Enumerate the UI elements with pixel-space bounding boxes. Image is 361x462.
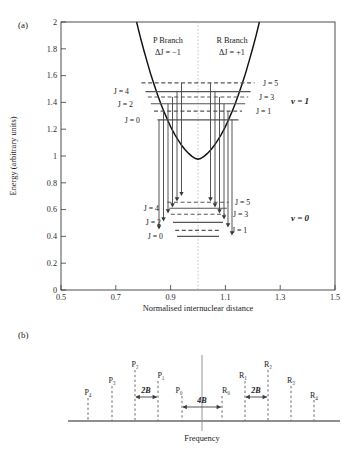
panel-a-y-tick-labels: 0 0.2 0.4 0.6 0.8 1 1.2 1.4 1.6 1.8 2 — [47, 18, 57, 295]
figure-svg: (a) 0 0.2 0.4 0.6 0.8 1 1.2 1.4 1.6 1.8 … — [0, 0, 361, 462]
v1-j-label-J0: J = 0 — [125, 116, 140, 125]
vibrational-state-upper-label: v = 1 — [291, 96, 309, 106]
spectral-label-P4: P₄ — [84, 388, 91, 397]
spectral-label-R4: R₄ — [310, 391, 318, 400]
p-branch-title: P Branch — [153, 36, 183, 45]
spectral-label-R3: R₃ — [287, 376, 295, 385]
panel-a-x-tick-labels: 0.5 0.7 0.9 1.1 1.3 1.5 — [56, 293, 340, 302]
spectral-label-P1: P₁ — [157, 371, 164, 380]
panel-b-x-axis-title: Frequency — [184, 434, 220, 443]
spectral-label-R2: R₂ — [264, 360, 272, 369]
y-tick-0p8: 0.8 — [47, 179, 57, 188]
v1-j-label-J4: J = 4 — [114, 87, 129, 96]
r-branch-transition-arrows — [211, 83, 233, 234]
figure-container: (a) 0 0.2 0.4 0.6 0.8 1 1.2 1.4 1.6 1.8 … — [0, 0, 361, 462]
v1-j-label-J1: J = 1 — [256, 107, 271, 116]
y-tick-0p2: 0.2 — [47, 259, 57, 268]
panel-a-x-axis-title: Normalised internuclear distance — [143, 304, 254, 313]
y-tick-2: 2 — [53, 18, 57, 27]
y-tick-0p6: 0.6 — [47, 205, 57, 214]
panel-a-label: (a) — [18, 20, 28, 30]
spacing-label-2b-right: 2B — [250, 386, 261, 395]
v0-j-label-J1: J = 1 — [232, 226, 247, 235]
spectral-label-P3: P₃ — [108, 376, 115, 385]
spectral-label-R0: R₀ — [222, 386, 230, 395]
panel-a-y-ticks — [61, 22, 66, 290]
spacing-label-4b: 4B — [196, 396, 207, 405]
x-tick-1p3: 1.3 — [275, 293, 285, 302]
r-branch-rule: ΔJ = +1 — [219, 48, 245, 57]
spectral-label-P0: P₀ — [175, 386, 182, 395]
y-tick-1p4: 1.4 — [47, 98, 57, 107]
spacing-label-2b-left: 2B — [140, 386, 151, 395]
p-branch-rule: ΔJ = −1 — [155, 48, 181, 57]
v0-j-label-J4: J = 4 — [144, 204, 159, 213]
spectral-label-R1: R₁ — [239, 371, 247, 380]
x-tick-1p1: 1.1 — [220, 293, 230, 302]
x-tick-1p5: 1.5 — [330, 293, 340, 302]
x-tick-0p9: 0.9 — [165, 293, 175, 302]
p-branch-transition-arrows — [159, 83, 182, 228]
vibrational-state-lower-label: v = 0 — [291, 213, 310, 223]
x-tick-0p5: 0.5 — [56, 293, 66, 302]
y-tick-1: 1 — [53, 152, 57, 161]
v1-j-label-J2: J = 2 — [118, 100, 133, 109]
v0-j-label-J5: J = 5 — [235, 198, 250, 207]
v0-j-label-J3: J = 3 — [233, 210, 248, 219]
v1-j-label-J5: J = 5 — [263, 79, 278, 88]
spectral-label-P2: P₂ — [131, 360, 138, 369]
x-tick-0p7: 0.7 — [111, 293, 121, 302]
y-tick-1p6: 1.6 — [47, 71, 57, 80]
y-tick-1p2: 1.2 — [47, 125, 57, 134]
y-tick-0p4: 0.4 — [47, 232, 57, 241]
v1-j-label-J3: J = 3 — [259, 93, 274, 102]
panel-a-y-axis-title: Energy (arbitrary units) — [9, 116, 18, 195]
v0-j-label-J0: J = 0 — [148, 232, 163, 241]
r-branch-title: R Branch — [216, 36, 247, 45]
panel-b-label: (b) — [18, 330, 29, 340]
y-tick-1p8: 1.8 — [47, 45, 57, 54]
v0-j-label-J2: J = 2 — [146, 218, 161, 227]
